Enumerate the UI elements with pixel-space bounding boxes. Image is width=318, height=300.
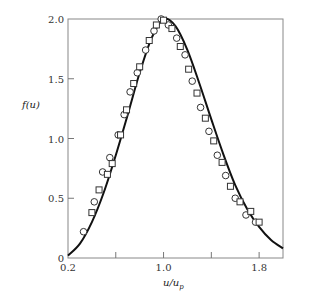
square-marker [227, 183, 233, 189]
circle-marker [182, 52, 189, 59]
circle-marker [151, 28, 158, 35]
square-marker [118, 132, 124, 138]
y-tick-label: 2.0 [48, 14, 64, 25]
square-marker [194, 90, 200, 96]
square-marker [248, 208, 254, 214]
square-marker [161, 17, 167, 23]
axis-ticks [68, 79, 259, 258]
x-tick-label: 1.0 [156, 262, 172, 273]
y-axis-label: f(u) [21, 99, 40, 110]
circle-marker [189, 78, 196, 85]
square-marker [89, 210, 95, 216]
circle-marker [206, 128, 213, 135]
square-marker [146, 38, 152, 44]
square-marker [137, 64, 143, 70]
square-marker [109, 161, 115, 167]
square-marker [153, 22, 159, 28]
circle-marker [197, 104, 204, 111]
square-marker [211, 138, 217, 144]
circle-marker [91, 199, 98, 206]
x-tick-label: 1.8 [251, 262, 267, 273]
square-marker [186, 66, 192, 72]
x-tick-labels: 0.21.01.8 [60, 262, 267, 273]
square-marker [169, 26, 175, 32]
data-markers [80, 16, 262, 235]
square-marker [237, 199, 243, 205]
x-axis-label-main: u/u [163, 277, 179, 288]
y-tick-label: 1.5 [48, 74, 64, 85]
circle-marker [107, 154, 114, 161]
circle-marker [127, 89, 134, 96]
x-tick-label: 0.2 [60, 262, 76, 273]
plot-frame [68, 19, 283, 258]
square-marker [177, 43, 183, 49]
x-axis-label-sub: p [179, 283, 184, 291]
circle-marker [80, 228, 87, 235]
y-tick-labels: 00.51.01.52.0 [48, 14, 64, 264]
square-marker [256, 219, 262, 225]
circle-marker [222, 172, 229, 179]
square-marker [96, 187, 102, 193]
chart: 00.51.01.52.0 0.21.01.8 f(u) u/up [0, 0, 318, 300]
square-marker [131, 81, 137, 87]
circle-marker [142, 47, 149, 54]
y-tick-label: 1.0 [48, 134, 64, 145]
theory-curve [68, 18, 283, 255]
y-tick-label: 0.5 [48, 193, 64, 204]
square-marker [124, 107, 130, 113]
square-marker [219, 159, 225, 165]
circle-marker [214, 152, 221, 159]
square-marker [202, 115, 208, 121]
square-marker [104, 171, 110, 177]
x-axis-label: u/up [163, 277, 184, 291]
circle-marker [134, 69, 141, 76]
circle-marker [173, 35, 180, 42]
